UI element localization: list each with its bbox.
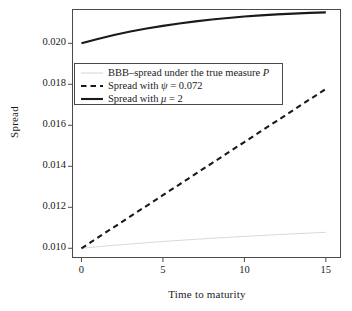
x-axis-title: Time to maturity	[72, 288, 342, 300]
legend-entry-bbb-spread: BBB–spread under the true measure P	[80, 66, 269, 79]
legend-entry-spread-mu: Spread with μ = 2	[80, 92, 183, 105]
y-tick-label: 0.012	[20, 200, 66, 211]
x-tick-label: 10	[224, 264, 264, 275]
dashed-black-key-icon	[80, 80, 104, 92]
legend-label-text: BBB–spread under the true measure	[108, 67, 263, 78]
y-axis-title: Spread	[8, 92, 20, 152]
y-tick-label: 0.016	[20, 118, 66, 129]
legend-label-text: Spread with	[108, 80, 161, 91]
y-tick-label: 0.018	[20, 77, 66, 88]
legend-label-bbb-spread: BBB–spread under the true measure P	[108, 67, 269, 79]
y-tick-label: 0.014	[20, 159, 66, 170]
legend-symbol-P: P	[263, 67, 269, 78]
legend-label-spread-mu: Spread with μ = 2	[108, 93, 183, 105]
legend: BBB–spread under the true measure P Spre…	[74, 63, 283, 105]
y-tick-label: 0.010	[20, 241, 66, 252]
x-tick-label: 0	[61, 264, 101, 275]
legend-label-suffix: = 0.072	[168, 80, 203, 91]
chart-figure: 0.020 0.018 0.016 0.014 0.012 0.010 0 5 …	[0, 0, 352, 311]
solid-light-key-icon	[80, 67, 104, 79]
y-tick-label-group: 0.020 0.018 0.016 0.014 0.012 0.010	[14, 0, 66, 311]
legend-label-text: Spread with	[108, 93, 161, 104]
x-tick-label: 5	[143, 264, 183, 275]
x-tick-label: 15	[306, 264, 346, 275]
legend-label-spread-psi: Spread with ψ = 0.072	[108, 80, 202, 92]
legend-entry-spread-psi: Spread with ψ = 0.072	[80, 79, 202, 92]
y-tick-label: 0.020	[20, 36, 66, 47]
solid-black-key-icon	[80, 93, 104, 105]
legend-label-suffix: = 2	[166, 93, 182, 104]
